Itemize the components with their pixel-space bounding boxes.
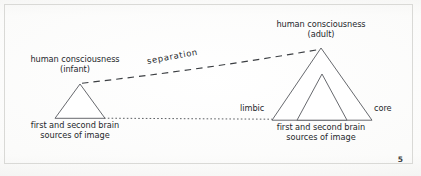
adult-consciousness-label: human consciousness (adult) [258,20,384,39]
infant-triangle [55,84,105,118]
infant-base-label-line1: first and second brain [31,120,119,130]
core-label: core [374,104,392,114]
figure-container: human consciousness (infant) first and s… [0,0,421,176]
adult-consciousness-label-line1: human consciousness [276,19,365,29]
limbic-label: limbic [240,104,264,114]
adult-consciousness-label-line2: (adult) [308,29,335,39]
infant-consciousness-label-line1: human consciousness [30,54,119,64]
adult-base-label-line2: sources of image [286,132,355,142]
adult-base-label: first and second brain sources of image [262,123,380,142]
baseline-dotted-connector [104,118,272,119]
infant-consciousness-label-line2: (infant) [60,64,90,74]
infant-base-label-line2: sources of image [40,130,109,140]
adult-base-label-line1: first and second brain [277,122,365,132]
infant-consciousness-label: human consciousness (infant) [16,55,134,74]
infant-base-label: first and second brain sources of image [14,121,136,140]
page-number: 5 [398,155,403,164]
